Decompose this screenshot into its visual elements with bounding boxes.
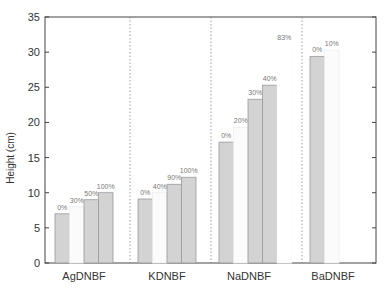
bar	[310, 56, 325, 263]
bar-value-label: 83%	[277, 34, 291, 41]
bar-value-label: 40%	[153, 183, 167, 190]
y-tick-label: 10	[28, 187, 40, 199]
bar	[138, 199, 153, 263]
bar	[263, 85, 278, 263]
bar-value-label: 0%	[221, 132, 231, 139]
bar	[234, 127, 249, 263]
bar	[84, 200, 99, 263]
bar	[182, 177, 197, 263]
bar-value-label: 30%	[70, 197, 84, 204]
x-category-label: NaDNBF	[227, 270, 271, 282]
y-tick-label: 0	[34, 257, 40, 269]
bar-value-label: 100%	[180, 167, 198, 174]
bar-value-label: 20%	[234, 117, 248, 124]
bar-value-label: 100%	[97, 183, 115, 190]
y-tick-label: 15	[28, 152, 40, 164]
y-tick-label: 20	[28, 116, 40, 128]
y-axis-label: Height (cm)	[5, 132, 16, 184]
bar	[248, 99, 263, 263]
bar	[70, 207, 85, 263]
x-category-label: AgDNBF	[62, 270, 106, 282]
bar-value-label: 10%	[325, 40, 339, 47]
bar-value-label: 90%	[167, 174, 181, 181]
bar	[219, 142, 234, 263]
y-tick-label: 35	[28, 11, 40, 23]
y-tick-label: 30	[28, 46, 40, 58]
bar	[153, 193, 168, 263]
bar	[277, 44, 292, 263]
y-tick-label: 25	[28, 81, 40, 93]
bar-value-label: 0%	[312, 46, 322, 53]
bar	[167, 184, 182, 263]
bar-value-label: 40%	[263, 75, 277, 82]
plot-area: 051015202530350%30%50%100%AgDNBF0%40%90%…	[28, 11, 376, 282]
x-category-label: BaDNBF	[311, 270, 355, 282]
bar-value-label: 50%	[84, 190, 98, 197]
bar-value-label: 0%	[140, 189, 150, 196]
bar	[55, 214, 70, 263]
bar-value-label: 0%	[57, 204, 67, 211]
bar-value-label: 30%	[248, 89, 262, 96]
bar	[325, 50, 340, 263]
x-category-label: KDNBF	[148, 270, 186, 282]
bar	[99, 193, 114, 263]
y-tick-label: 5	[34, 222, 40, 234]
bar-chart: 051015202530350%30%50%100%AgDNBF0%40%90%…	[0, 0, 387, 292]
